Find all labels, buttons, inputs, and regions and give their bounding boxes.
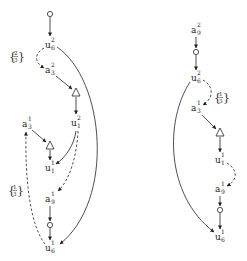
diagram-canvas: u 2 6 { 2 3 } a 2 3 u 2 1	[0, 0, 247, 261]
svg-text:6: 6	[221, 236, 225, 243]
svg-text:}: }	[223, 91, 230, 104]
node-a9-1-right: a 1 9	[215, 180, 225, 195]
svg-text:3: 3	[28, 123, 32, 130]
edge-a3-1-tri2	[32, 130, 46, 142]
edge-a3-2-tri1	[56, 76, 72, 89]
svg-text:1: 1	[77, 122, 81, 129]
svg-text:2: 2	[14, 50, 18, 56]
edge-u1-2-u1-1	[56, 131, 76, 164]
node-a3-1: a 1 3	[22, 115, 32, 130]
probability-label-1-3-left: { 1 3 }	[8, 184, 24, 197]
triangle-node-1	[72, 88, 80, 96]
svg-text:6: 6	[51, 247, 55, 254]
svg-text:3: 3	[51, 69, 55, 76]
edge-dashed-u6-2-a3-1-right	[203, 80, 211, 105]
svg-text:1: 1	[221, 180, 225, 187]
left-graph: u 2 6 { 2 3 } a 2 3 u 2 1	[8, 11, 97, 254]
edge-dashed-u6-2-a3-2	[37, 48, 45, 68]
svg-text:9: 9	[197, 29, 201, 36]
svg-text:9: 9	[51, 198, 55, 205]
svg-text:1: 1	[221, 159, 225, 166]
svg-text:1: 1	[219, 91, 223, 97]
svg-text:1: 1	[51, 239, 55, 246]
svg-text:2: 2	[197, 21, 201, 28]
svg-text:1: 1	[28, 115, 32, 122]
start-node-circle	[47, 11, 52, 16]
right-graph: a 2 9 u 2 6 { 1 3 } a 1 3	[174, 21, 236, 243]
svg-text:9: 9	[221, 188, 225, 195]
triangle-node-right	[216, 128, 224, 136]
svg-text:1: 1	[51, 190, 55, 197]
node-u6-2-right: u 2 6	[191, 69, 201, 84]
svg-text:6: 6	[197, 77, 201, 84]
edge-u6-2-u6-1	[57, 47, 97, 244]
node-a9-2: a 2 9	[191, 21, 201, 36]
node-u6-1-right: u 1 6	[215, 228, 225, 243]
svg-text:1: 1	[197, 99, 201, 106]
probability-label-1-3-right: { 1 3 }	[214, 91, 230, 104]
node-u1-1-right: u 1 1	[215, 151, 225, 166]
node-u6-2: u 2 6	[45, 36, 55, 51]
svg-text:1: 1	[13, 184, 17, 190]
svg-text:2: 2	[51, 36, 55, 43]
svg-text:}: }	[17, 184, 24, 197]
node-a9-1: a 1 9	[45, 190, 55, 205]
svg-text:3: 3	[197, 107, 201, 114]
circle-node-r2	[217, 207, 222, 212]
triangle-node-2	[46, 141, 54, 149]
svg-text:2: 2	[197, 69, 201, 76]
probability-label-2-3: { 2 3 }	[9, 50, 25, 63]
node-u1-1: u 1 1	[45, 159, 55, 174]
node-a3-2: a 2 3	[45, 61, 55, 76]
svg-text:1: 1	[221, 151, 225, 158]
circle-node-1	[47, 222, 52, 227]
circle-node-r1	[193, 49, 198, 54]
svg-text:2: 2	[77, 114, 81, 121]
edge-dashed-u1-2-a9-1	[58, 131, 78, 191]
svg-text:1: 1	[221, 228, 225, 235]
svg-text:6: 6	[51, 44, 55, 51]
svg-text:}: }	[18, 50, 25, 63]
svg-text:1: 1	[51, 159, 55, 166]
edge-a3-1-tri-right	[202, 115, 216, 129]
svg-text:2: 2	[51, 61, 55, 68]
node-u6-1: u 1 6	[45, 239, 55, 254]
node-u1-2: u 2 1	[71, 114, 81, 129]
edge-dashed-u6-1-a3-1	[26, 132, 45, 244]
svg-text:1: 1	[51, 167, 55, 174]
edge-dashed-u1-1-a9-1-right	[227, 163, 235, 186]
node-a3-1-right: a 1 3	[191, 99, 201, 114]
